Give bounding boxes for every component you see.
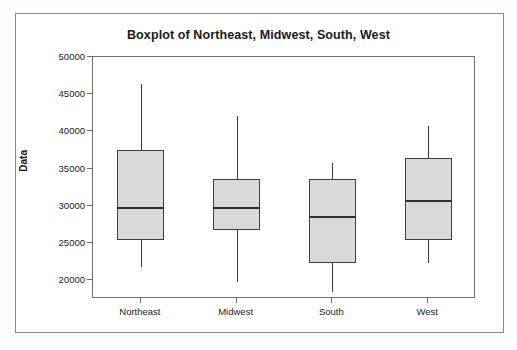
x-tick-mark bbox=[331, 298, 332, 303]
lower-whisker bbox=[428, 240, 429, 262]
y-tick-mark bbox=[87, 56, 92, 57]
iqr-box bbox=[405, 158, 452, 241]
boxplot-series bbox=[93, 57, 474, 297]
x-tick-mark bbox=[236, 298, 237, 303]
upper-whisker bbox=[428, 126, 429, 157]
x-tick-mark bbox=[140, 298, 141, 303]
plot-area bbox=[92, 56, 475, 298]
median-line bbox=[405, 200, 452, 202]
x-tick-label-midwest: Midwest bbox=[218, 306, 253, 317]
y-tick-mark bbox=[87, 130, 92, 131]
y-tick-label: 25000 bbox=[39, 237, 85, 248]
y-tick-mark bbox=[87, 168, 92, 169]
chart-title: Boxplot of Northeast, Midwest, South, We… bbox=[0, 28, 517, 42]
box-west bbox=[93, 57, 474, 297]
y-tick-mark bbox=[87, 242, 92, 243]
figure-root: Boxplot of Northeast, Midwest, South, We… bbox=[0, 0, 517, 350]
y-tick-label: 30000 bbox=[39, 199, 85, 210]
y-tick-mark bbox=[87, 205, 92, 206]
y-tick-mark bbox=[87, 279, 92, 280]
x-tick-label-west: West bbox=[416, 306, 437, 317]
y-tick-label: 35000 bbox=[39, 162, 85, 173]
y-tick-label: 40000 bbox=[39, 125, 85, 136]
y-tick-mark bbox=[87, 93, 92, 94]
y-axis-title: Data bbox=[18, 150, 36, 172]
x-tick-label-south: South bbox=[319, 306, 344, 317]
y-tick-label: 45000 bbox=[39, 88, 85, 99]
y-tick-label: 50000 bbox=[39, 51, 85, 62]
x-tick-mark bbox=[427, 298, 428, 303]
y-tick-label: 20000 bbox=[39, 274, 85, 285]
x-tick-label-northeast: Northeast bbox=[119, 306, 160, 317]
